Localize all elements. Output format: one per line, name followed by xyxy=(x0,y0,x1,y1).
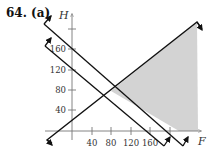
x-tick-label-80: 80 xyxy=(106,138,117,148)
x-tick-label-40: 40 xyxy=(87,138,98,148)
y-tick-label-120: 120 xyxy=(50,65,66,75)
x-axis-label: F xyxy=(197,135,206,148)
graph: 160 120 80 40 40 80 120 160 H F xyxy=(0,0,209,154)
shaded-region xyxy=(111,22,198,131)
y-tick-label-80: 80 xyxy=(55,85,66,95)
y-tick-label-40: 40 xyxy=(55,105,66,115)
y-axis-label: H xyxy=(58,9,69,22)
x-tick-label-120: 120 xyxy=(123,138,139,148)
